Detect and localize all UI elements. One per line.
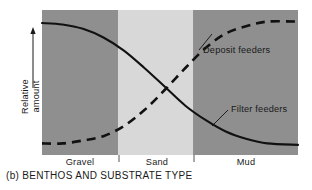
substrate-band-mud <box>193 10 298 155</box>
series-label-deposit-feeders: Deposit feeders <box>203 45 270 55</box>
x-tick-label-mud: Mud <box>216 157 276 167</box>
x-tick-label-gravel: Gravel <box>50 157 110 167</box>
substrate-band-gravel <box>42 10 118 155</box>
y-axis-label-line1: Relative <box>20 79 30 114</box>
figure-caption: (b) BENTHOS AND SUBSTRATE TYPE <box>6 170 192 181</box>
y-axis-label: Relative amount <box>20 54 41 140</box>
substrate-band-sand <box>118 10 193 155</box>
benthos-substrate-figure: Relative amount Gravel Sand Mud Deposit … <box>0 0 312 190</box>
y-axis-label-line2: amount <box>30 81 40 113</box>
series-label-filter-feeders: Filter feeders <box>231 104 287 114</box>
x-tick-label-sand: Sand <box>127 157 187 167</box>
